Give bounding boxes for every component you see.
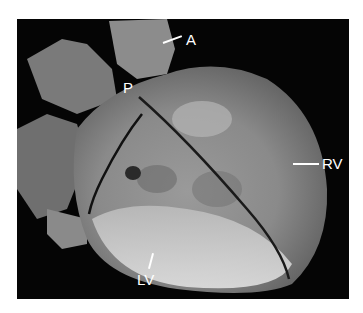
label-lv: LV bbox=[137, 272, 154, 287]
label-rv-leader bbox=[293, 163, 319, 165]
label-rv: RV bbox=[322, 156, 343, 171]
label-p: P bbox=[123, 80, 133, 95]
label-a: A bbox=[186, 32, 196, 47]
aorta-shape bbox=[109, 19, 175, 79]
heart-illustration bbox=[17, 19, 349, 299]
heart-specimen-photo bbox=[17, 19, 349, 299]
